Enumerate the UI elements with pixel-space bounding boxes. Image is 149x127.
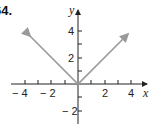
y-ticks — [78, 31, 82, 111]
x-tick-label-4: 4 — [128, 88, 134, 99]
x-tick-label-neg4: − 4 — [12, 88, 28, 99]
x-tick-label-2: 2 — [102, 88, 108, 99]
y-tick-label-2: 2 — [68, 53, 74, 64]
x-axis-label: x — [143, 87, 148, 99]
y-axis-label: y — [69, 4, 74, 16]
x-tick-label-neg2: − 2 — [40, 88, 56, 99]
y-tick-label-4: 4 — [68, 26, 74, 37]
y-tick-label-neg2: − 2 — [62, 106, 78, 117]
